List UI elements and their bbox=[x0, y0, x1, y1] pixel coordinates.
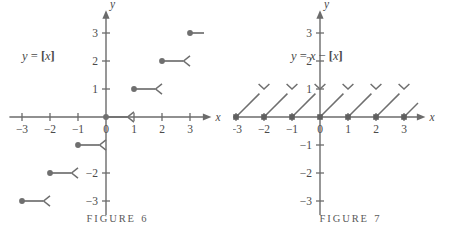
x-axis-name: x bbox=[428, 111, 435, 123]
y-tick-label--1: −1 bbox=[300, 139, 312, 151]
y-axis-arrowhead bbox=[102, 10, 109, 19]
closed-endpoint-1 bbox=[47, 170, 53, 176]
figure-7-caption-word: FIGURE bbox=[320, 213, 369, 224]
ramp-open-endpoint-1 bbox=[287, 84, 298, 89]
ramp-open-endpoint-4 bbox=[371, 84, 382, 89]
figure-6-container: xy−3−2−10123321−2−3y = [x] FIGURE 6 bbox=[0, 0, 233, 242]
x-tick-label-1: 1 bbox=[131, 123, 137, 135]
y-axis-arrowhead bbox=[316, 10, 323, 19]
x-tick-label--1: −1 bbox=[286, 123, 298, 135]
x-tick-label-0: 0 bbox=[103, 123, 109, 135]
x-tick-label--2: −2 bbox=[258, 123, 270, 135]
figure-7-caption-number: 7 bbox=[374, 213, 379, 224]
ramp-closed-endpoint-1 bbox=[261, 114, 267, 120]
y-tick-label--2: −2 bbox=[300, 167, 312, 179]
y-tick-label--2: −2 bbox=[86, 167, 98, 179]
ramp-segment-line-2 bbox=[292, 94, 315, 117]
open-endpoint-2 bbox=[100, 140, 106, 150]
x-tick-label-1: 1 bbox=[345, 123, 351, 135]
y-axis-name: y bbox=[323, 0, 330, 11]
figure-6-caption-word: FIGURE bbox=[87, 213, 136, 224]
x-axis-arrowhead bbox=[417, 113, 426, 120]
ramp-closed-endpoint-6 bbox=[401, 114, 407, 120]
step-segment-1 bbox=[47, 168, 78, 178]
y-tick-label-3: 3 bbox=[92, 27, 98, 39]
y-tick-label--3: −3 bbox=[86, 195, 98, 207]
y-tick-label-2: 2 bbox=[92, 55, 98, 67]
step-segment-6 bbox=[187, 30, 204, 36]
y-tick-label-3: 3 bbox=[306, 27, 312, 39]
closed-endpoint-5 bbox=[159, 58, 165, 64]
ramp-open-endpoint-3 bbox=[343, 84, 354, 89]
closed-endpoint-6 bbox=[187, 30, 193, 36]
ramp-closed-endpoint-5 bbox=[373, 114, 379, 120]
figure-6-caption: FIGURE 6 bbox=[0, 213, 233, 224]
ramp-open-endpoint-0 bbox=[259, 84, 270, 89]
figure-7-equation-label: y = x − [x] bbox=[289, 49, 343, 63]
x-tick-label-3: 3 bbox=[401, 123, 407, 135]
x-tick-label--2: −2 bbox=[44, 123, 56, 135]
x-tick-label-2: 2 bbox=[159, 123, 165, 135]
figure-6-equation-label: y = [x] bbox=[20, 49, 55, 63]
closed-endpoint-2 bbox=[75, 142, 81, 148]
ramp-closed-endpoint-2 bbox=[289, 114, 295, 120]
x-tick-label-2: 2 bbox=[373, 123, 379, 135]
open-endpoint-1 bbox=[72, 168, 78, 178]
x-axis-arrowhead bbox=[203, 113, 212, 120]
open-endpoint-0 bbox=[44, 196, 50, 206]
step-segment-4 bbox=[131, 84, 162, 94]
figure-7-caption: FIGURE 7 bbox=[233, 213, 466, 224]
open-endpoint-4 bbox=[156, 84, 162, 94]
step-segment-5 bbox=[159, 56, 190, 66]
x-tick-label--1: −1 bbox=[72, 123, 84, 135]
y-tick-label-1: 1 bbox=[306, 83, 312, 95]
figure-6-caption-number: 6 bbox=[141, 213, 146, 224]
ramp-segment-line-4 bbox=[348, 94, 371, 117]
ramp-closed-endpoint-4 bbox=[345, 114, 351, 120]
step-segment-2 bbox=[75, 140, 106, 150]
figure-6-plot: xy−3−2−10123321−2−3y = [x] bbox=[0, 0, 233, 215]
ramp-segment-line-0 bbox=[236, 94, 259, 117]
step-segment-0 bbox=[19, 196, 50, 206]
x-tick-label--3: −3 bbox=[233, 123, 242, 135]
y-tick-label-1: 1 bbox=[92, 83, 98, 95]
x-tick-label-3: 3 bbox=[187, 123, 193, 135]
figure-7-plot: xy−3−2−10123321−1−2−3y = x − [x] bbox=[233, 0, 466, 215]
ramp-segment-line-3 bbox=[320, 94, 343, 117]
open-endpoint-5 bbox=[184, 56, 190, 66]
y-axis-name: y bbox=[109, 0, 116, 11]
ramp-segment-line-5 bbox=[376, 94, 399, 117]
ramp-segment-line-1 bbox=[264, 94, 287, 117]
closed-endpoint-0 bbox=[19, 198, 25, 204]
x-tick-label-0: 0 bbox=[317, 123, 323, 135]
ramp-closed-endpoint-3 bbox=[317, 114, 323, 120]
y-tick-label--3: −3 bbox=[300, 195, 312, 207]
x-axis-name: x bbox=[214, 111, 221, 123]
ramp-open-endpoint-5 bbox=[399, 84, 410, 89]
ramp-closed-endpoint-0 bbox=[233, 114, 239, 120]
x-tick-label--3: −3 bbox=[16, 123, 28, 135]
closed-endpoint-3 bbox=[103, 114, 109, 120]
closed-endpoint-4 bbox=[131, 86, 137, 92]
figure-7-container: xy−3−2−10123321−1−2−3y = x − [x] FIGURE … bbox=[233, 0, 466, 242]
